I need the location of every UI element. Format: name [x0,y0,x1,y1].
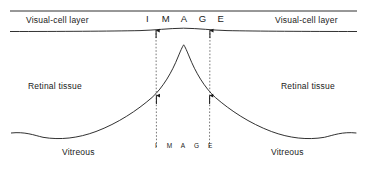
retinal-tissue-label-left: Retinal tissue [28,82,82,91]
image-top-letter-1: I [138,14,156,24]
retina-image-magnification-diagram: Visual-cell layer Visual-cell layer I M … [0,0,367,169]
image-top-letter-2: M [156,14,174,24]
image-top-letter-5: E [212,14,230,24]
image-top-letter-4: G [193,14,211,24]
retinal-tissue-label-right: Retinal tissue [281,82,335,91]
visual-cell-layer-boundary [10,28,357,31]
visual-cell-layer-label-right: Visual-cell layer [275,16,338,25]
left-projection-ray [156,29,157,147]
vitreous-label-left: Vitreous [62,148,95,157]
image-bottom-letter-4: G [190,143,204,150]
image-bottom-letter-1: I [149,143,163,150]
image-top-letter-3: A [175,14,193,24]
image-bottom-letter-3: A [176,143,190,150]
image-bottom-letter-2: M [163,143,177,150]
image-bottom-letter-5: E [203,143,217,150]
image-letters-bottom: I M A G E [149,143,217,150]
retina-vitreous-interface [11,45,356,139]
right-projection-ray [210,29,211,147]
visual-cell-layer-label-left: Visual-cell layer [26,16,89,25]
vitreous-label-right: Vitreous [271,148,304,157]
image-letters-top: I M A G E [138,14,230,24]
